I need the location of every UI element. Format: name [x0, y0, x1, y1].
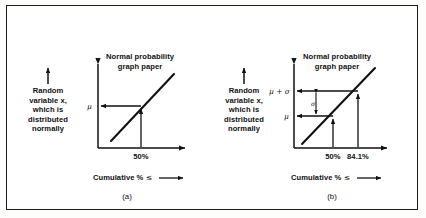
- panel-b-caption-tag: (b): [317, 192, 347, 201]
- panel-b-x-axis-caption: Cumulative %: [291, 173, 341, 182]
- panel-a: Normal probability graph paper Random va…: [7, 6, 213, 211]
- panel-b-plot-title-line1: Normal probability: [287, 52, 387, 61]
- panel-a-y-axis-label-line-5: normally: [15, 124, 81, 133]
- panel-a-y-axis-label-line-4: distributed: [15, 115, 81, 124]
- panel-a-mu-label: μ: [87, 102, 92, 111]
- panel-a-y-axis-label-line-2: variable x,: [15, 96, 81, 105]
- panel-b-mu-plus-sigma-label: μ + σ: [269, 87, 290, 96]
- panel-b-plot-title-line2: graph paper: [287, 62, 387, 71]
- panel-a-less-equal-icon: ≤: [146, 173, 152, 182]
- figure-root: Normal probability graph paper Random va…: [0, 0, 426, 218]
- panel-a-plot-title-line1: Normal probability: [90, 52, 190, 61]
- panel-b-y-axis-label-line-5: normally: [211, 124, 277, 133]
- panel-a-caption-tag: (a): [112, 192, 142, 201]
- panel-b-y-axis-label-line-3: which is: [211, 105, 277, 114]
- panel-a-plot-title-line2: graph paper: [90, 62, 190, 71]
- panel-a-x-axis-caption: Cumulative %: [93, 173, 143, 182]
- panel-b-y-axis-label-line-2: variable x,: [211, 96, 277, 105]
- panel-a-x-tick-50: 50%: [121, 152, 161, 161]
- panel-b-y-axis-label-line-4: distributed: [211, 115, 277, 124]
- panel-a-y-axis-label-line-1: Random: [15, 86, 81, 95]
- panel-b-less-equal-icon: ≤: [344, 173, 350, 182]
- panel-a-y-axis-label-line-3: which is: [15, 105, 81, 114]
- figure-border-frame: Normal probability graph paper Random va…: [6, 5, 418, 210]
- panel-b-sigma-interval-label: σ: [311, 100, 315, 107]
- panel-b: Normal probability graph paper Random va…: [207, 6, 413, 211]
- panel-b-mu-label: μ: [284, 112, 289, 121]
- panel-b-x-tick-84: 84.1%: [337, 152, 379, 161]
- panel-b-y-axis-label-line-1: Random: [211, 86, 277, 95]
- panel-a-data-line: [111, 74, 174, 141]
